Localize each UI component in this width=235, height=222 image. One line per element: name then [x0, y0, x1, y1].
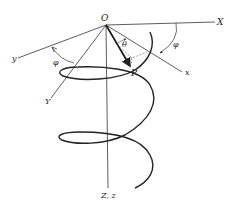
fixed-y-label: Y: [45, 97, 51, 106]
origin-label: O: [101, 13, 109, 23]
rotating-y-label: y: [11, 54, 17, 63]
rotating-y-axis: [18, 25, 106, 58]
rotating-x-label: x: [185, 68, 190, 77]
rotating-x-axis: [106, 25, 182, 72]
phi-left-label: φ: [53, 58, 59, 67]
fixed-y-axis: [51, 25, 106, 98]
helix-coordinate-diagram: O X x y Y Z, z P θ φ φ: [0, 0, 235, 222]
z-axis: [106, 25, 108, 188]
phi-right-label: φ: [173, 40, 179, 49]
dashed-projection-vertical: [131, 58, 132, 64]
theta-label: θ: [122, 40, 127, 49]
fixed-x-label: X: [216, 17, 224, 27]
z-axis-label: Z, z: [100, 191, 117, 200]
fixed-x-axis: [106, 22, 215, 25]
point-p-label: P: [130, 68, 138, 78]
